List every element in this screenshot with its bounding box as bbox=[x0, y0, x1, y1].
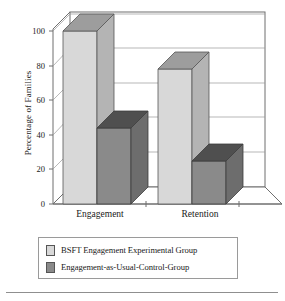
legend-swatch-icon-bsft bbox=[46, 245, 55, 256]
bottom-divider bbox=[6, 292, 278, 293]
y-tick-label-40: 40 bbox=[19, 131, 45, 140]
y-tick-label-60: 60 bbox=[19, 96, 45, 105]
legend-label-bsft: BSFT Engagement Experimental Group bbox=[61, 245, 197, 255]
legend-item-bsft: BSFT Engagement Experimental Group bbox=[46, 243, 197, 257]
y-tick-label-20: 20 bbox=[19, 165, 45, 174]
legend-item-control: Engagement-as-Usual-Control-Group bbox=[46, 260, 189, 274]
y-tick-label-100: 100 bbox=[19, 27, 45, 36]
x-tick-label-engagement: Engagement bbox=[60, 210, 140, 220]
x-tick-label-retention: Retention bbox=[160, 210, 240, 220]
legend: BSFT Engagement Experimental Group Engag… bbox=[38, 237, 238, 279]
bar-engagement-control bbox=[97, 111, 148, 204]
figure: Percentage of Families 100 80 60 40 20 0… bbox=[0, 0, 285, 301]
bar-retention-control bbox=[192, 144, 243, 204]
legend-label-control: Engagement-as-Usual-Control-Group bbox=[61, 262, 189, 272]
legend-swatch-icon-control bbox=[46, 262, 55, 273]
y-tick-label-0: 0 bbox=[19, 200, 45, 209]
y-tick-marks bbox=[49, 31, 53, 204]
y-tick-label-80: 80 bbox=[19, 62, 45, 71]
